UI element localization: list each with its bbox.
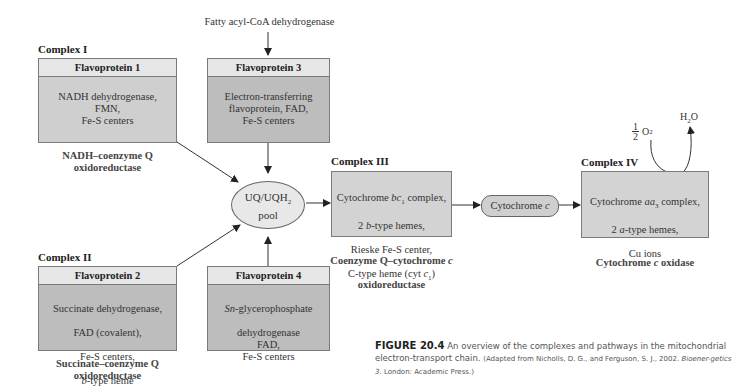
- flavoprotein4-header: Flavoprotein 4: [208, 267, 329, 285]
- o2-symbol: O: [642, 126, 649, 137]
- pool-subscript: 2: [288, 198, 292, 206]
- caption-source-a: (Adapted from Nicholls, D. G., and Fergu…: [483, 355, 681, 363]
- c3-sub1: Coenzyme Q–cytochrome: [330, 255, 448, 266]
- flavoprotein2-header: Flavoprotein 2: [39, 267, 176, 285]
- cytc-text: Cytochrome: [490, 200, 545, 211]
- uq-pool: UQ/UQH2 pool: [231, 181, 305, 229]
- complex2-line1: Succinate dehydrogenase,: [39, 303, 176, 315]
- complex1-subtitle: NADH–coenzyme Q oxidoreductase: [38, 150, 177, 174]
- c4-l1a: Cytochrome: [590, 196, 645, 207]
- complex2-label: Complex II: [38, 251, 91, 263]
- complex2-box: Flavoprotein 2 Succinate dehydrogenase, …: [38, 266, 177, 351]
- flavoprotein4-body: Sn-glycerophosphate dehydrogenase FAD, F…: [208, 285, 329, 375]
- c4-l2b: -type hemes,: [625, 224, 679, 235]
- complex3-label: Complex III: [331, 155, 389, 167]
- caption-source-b: . London: Academic Press.): [379, 368, 473, 376]
- flavo4-italic: Sn: [224, 303, 235, 314]
- pool-word: pool: [232, 209, 304, 222]
- c3-sub1i: c: [448, 255, 453, 266]
- complex4-subtitle: Cytochrome c oxidase: [581, 245, 709, 269]
- c3-l2a: 2: [358, 220, 366, 231]
- pool-label: UQ/UQH: [245, 191, 288, 203]
- complex4-label: Complex IV: [581, 156, 638, 168]
- c4-sub-b: oxidase: [658, 257, 694, 268]
- o2-numerator: 1: [633, 122, 638, 131]
- flavoprotein3-body: Electron-transferring flavoprotein, FAD,…: [208, 77, 329, 127]
- c3-l1a: Cytochrome: [337, 192, 392, 203]
- h2o-o: O: [691, 111, 698, 122]
- fatty-acyl-coa-label: Fatty acyl-CoA dehydrogenase: [202, 16, 337, 27]
- cytc-italic: c: [545, 200, 550, 211]
- complex4-box: Cytochrome aa3 complex, 2 a-type hemes, …: [581, 171, 709, 238]
- water-label: H2O: [680, 111, 698, 125]
- c3-l1b: complex,: [405, 192, 446, 203]
- flavoprotein3-header: Flavoprotein 3: [208, 59, 329, 77]
- c4-l1b: complex,: [659, 196, 700, 207]
- c4-l1i: aa: [645, 196, 656, 207]
- caption-figure-number: FIGURE 20.4: [375, 340, 445, 351]
- flavo4-body-rest: dehydrogenase FAD, Fe-S centers: [208, 327, 329, 363]
- o2-denominator: 2: [633, 132, 638, 141]
- half-oxygen-label: 1 2 O2: [632, 122, 653, 141]
- c4-sub-a: Cytochrome: [596, 257, 654, 268]
- complex3-subtitle: Coenzyme Q–cytochrome c oxidoreductase: [321, 243, 462, 303]
- complex2-subtitle: Succinate–coenzyme Q oxidoreductase: [38, 358, 177, 382]
- complex1-body: NADH dehydrogenase, FMN, Fe-S centers: [39, 77, 176, 127]
- complex3-box: Cytochrome bc1 complex, 2 b-type hemes, …: [331, 171, 452, 237]
- o2-subscript: 2: [649, 128, 653, 136]
- complex1-label: Complex I: [38, 43, 87, 55]
- flavoprotein4-box: Flavoprotein 4 Sn-glycerophosphate dehyd…: [207, 266, 330, 351]
- flavo4-line1: -glycerophosphate: [235, 303, 313, 314]
- cytochrome-c-node: Cytochrome c: [481, 195, 559, 217]
- c3-l1i: bc: [391, 192, 401, 203]
- complex1-box: Flavoprotein 1 NADH dehydrogenase, FMN, …: [38, 58, 177, 143]
- flavoprotein3-box: Flavoprotein 3 Electron-transferring fla…: [207, 58, 330, 143]
- c3-sub2: oxidoreductase: [321, 279, 462, 291]
- complex2-line2: FAD (covalent),: [39, 327, 176, 339]
- c3-l2b: -type hemes,: [371, 220, 425, 231]
- flavoprotein1-header: Flavoprotein 1: [39, 59, 176, 77]
- figure-caption: FIGURE 20.4 An overview of the complexes…: [375, 340, 740, 378]
